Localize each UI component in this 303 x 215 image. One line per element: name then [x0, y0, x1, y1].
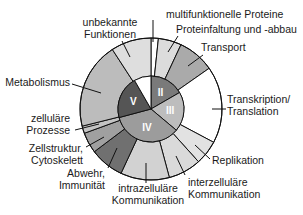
label-transkription-translation: Transkription/Translation: [227, 93, 290, 117]
label-line: Funktionen: [84, 28, 136, 40]
label-line: Kommunikation: [112, 194, 185, 206]
label-transport: Transport: [201, 41, 246, 53]
label-multifunktionelle-proteine: multifunktionelle Proteine: [166, 8, 283, 20]
label-zelluläre-prozesse: zelluläreProzesse: [26, 112, 70, 136]
pie-chart: IIIIIIVV multifunktionelle ProteineProte…: [0, 0, 303, 215]
label-line: Kommunikation: [188, 188, 261, 200]
inner-label-v: V: [130, 96, 137, 107]
label-line: Zellstruktur,: [29, 142, 83, 154]
label-abwehr-immunität: Abwehr,Immunität: [59, 167, 105, 191]
label-zellstruktur-cytoskelett: Zellstruktur,Cytoskelett: [29, 142, 83, 166]
inner-label-ii: II: [158, 87, 164, 98]
label-line: Translation: [227, 105, 279, 117]
label-metabolismus: Metabolismus: [5, 76, 70, 88]
label-line: Transport: [201, 41, 246, 53]
label-line: Abwehr,: [67, 167, 105, 179]
label-line: Prozesse: [26, 124, 70, 136]
label-line: multifunktionelle Proteine: [166, 8, 283, 20]
inner-label-iv: IV: [142, 122, 152, 133]
label-line: Cytoskelett: [31, 154, 83, 166]
label-line: zelluläre: [31, 112, 70, 124]
inner-pie: IIIIIIVV: [118, 76, 184, 142]
label-intrazelluläre-kommunikation: intrazelluläreKommunikation: [112, 182, 185, 206]
inner-label-iii: III: [166, 105, 175, 116]
label-replikation: Replikation: [212, 154, 264, 166]
label-interzelluläre-kommunikation: interzelluläreKommunikation: [188, 176, 261, 200]
label-line: Transkription/: [227, 93, 290, 105]
label-line: unbekannte: [83, 16, 138, 28]
label-line: intrazelluläre: [118, 182, 178, 194]
label-unbekannte-funktionen: unbekannteFunktionen: [83, 16, 138, 40]
label-line: interzelluläre: [188, 176, 248, 188]
label-line: Proteinfaltung und -abbau: [176, 23, 297, 35]
label-line: Metabolismus: [5, 76, 70, 88]
label-proteinfaltung-und-abbau: Proteinfaltung und -abbau: [176, 23, 297, 35]
label-line: Replikation: [212, 154, 264, 166]
label-line: Immunität: [59, 179, 105, 191]
